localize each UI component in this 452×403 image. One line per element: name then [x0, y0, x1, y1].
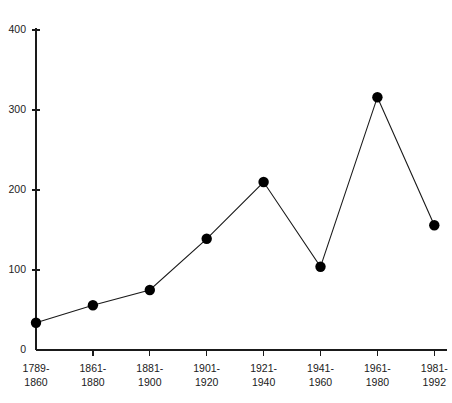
data-point: 1901-1920: 139 [202, 234, 212, 244]
data-point: 1789-1860: 34 [31, 318, 41, 328]
y-tick-label: 200 [8, 183, 26, 195]
y-tick-label: 300 [8, 103, 26, 115]
y-tick-label: 100 [8, 263, 26, 275]
y-tick-label: 0 [20, 343, 26, 355]
chart-canvas: 0100200300400 1789-1860: 341861-1880: 56… [0, 0, 452, 403]
line-chart: 0100200300400 1789-1860: 341861-1880: 56… [0, 0, 452, 403]
y-tick-label: 400 [8, 23, 26, 35]
data-point: 1861-1880: 56 [88, 300, 98, 310]
data-point: 1921-1940: 210 [258, 177, 268, 187]
data-point: 1961-1980: 316 [372, 92, 382, 102]
chart-background [0, 0, 452, 403]
data-point: 1981-1992: 156 [429, 220, 439, 230]
data-point: 1941-1960: 104 [315, 262, 325, 272]
data-point: 1881-1900: 75 [145, 285, 155, 295]
